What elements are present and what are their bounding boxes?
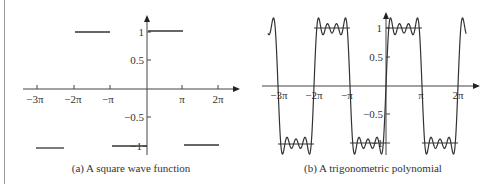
- x-tick-label: −2π: [305, 89, 323, 101]
- x-tick-label: 2π: [452, 89, 464, 101]
- y-tick-label: 0.5: [369, 51, 383, 63]
- x-tick-label: −π: [341, 89, 353, 101]
- x-axis-arrow-icon: [233, 86, 240, 92]
- y-tick-label: −1: [130, 140, 142, 152]
- figure: −3π −2π −π π 2π 1 0.5 −0.5 −1 (a) A squa…: [0, 0, 492, 184]
- chart-trig-polynomial: [262, 12, 480, 155]
- right-x-tick-labels: −3π −2π −π π 2π: [270, 89, 464, 101]
- y-tick-label: −0.5: [363, 108, 383, 120]
- chart-square-wave: [23, 15, 240, 155]
- y-tick-label: 0.5: [130, 54, 144, 66]
- y-tick-label: 1: [377, 22, 383, 34]
- x-tick-label: π: [179, 93, 185, 105]
- x-tick-label: −3π: [270, 89, 288, 101]
- y-tick-label: −1: [371, 137, 383, 149]
- caption-right: (b) A trigonometric polynomial: [304, 162, 442, 175]
- x-tick-label: −π: [102, 93, 114, 105]
- x-tick-label: −3π: [26, 93, 44, 105]
- x-axis-arrow-icon: [473, 83, 480, 89]
- y-tick-label: −0.5: [124, 111, 144, 123]
- y-axis-arrow-icon: [144, 15, 150, 22]
- x-tick-label: −2π: [64, 93, 82, 105]
- y-tick-label: 1: [139, 26, 145, 38]
- caption-left: (a) A square wave function: [72, 162, 191, 175]
- left-x-tick-labels: −3π −2π −π π 2π: [26, 93, 224, 105]
- y-axis-arrow-icon: [383, 12, 389, 19]
- x-tick-label: 2π: [212, 93, 224, 105]
- x-tick-label: π: [418, 89, 424, 101]
